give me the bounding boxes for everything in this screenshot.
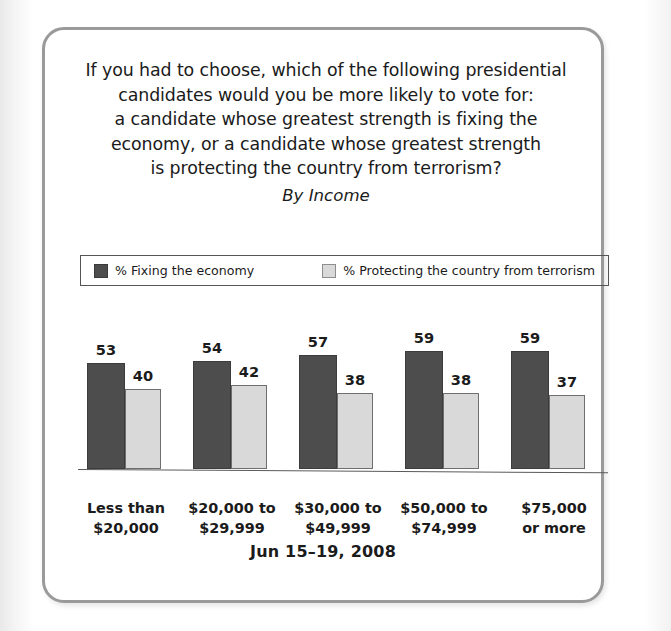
bar-value-terrorism-0: 40 — [125, 368, 161, 384]
footer-date: Jun 15–19, 2008 — [45, 542, 601, 561]
legend-swatch-light-icon — [322, 264, 336, 278]
bar-terrorism-3 — [443, 393, 479, 469]
page-title: If you had to choose, which of the follo… — [63, 58, 589, 208]
chart-legend: % Fixing the economy % Protecting the co… — [80, 255, 609, 286]
bar-economy-3 — [405, 351, 443, 469]
x-label-1: $20,000 to $29,999 — [176, 498, 288, 538]
bar-economy-0 — [87, 363, 125, 469]
x-label-0: Less than $20,000 — [70, 498, 182, 538]
title-line-1: If you had to choose, which of the follo… — [63, 58, 589, 83]
bar-terrorism-2 — [337, 393, 373, 469]
x-label-2: $30,000 to $49,999 — [282, 498, 394, 538]
bar-value-terrorism-4: 37 — [549, 374, 585, 390]
bar-chart-plot: 53 40 54 42 57 38 59 38 59 37 — [78, 330, 608, 470]
bar-group: 53 40 — [78, 329, 174, 469]
bar-terrorism-1 — [231, 385, 267, 469]
bar-group: 54 42 — [184, 329, 280, 469]
bar-value-economy-1: 54 — [193, 340, 231, 356]
bar-economy-2 — [299, 355, 337, 469]
x-axis-labels: Less than $20,000 $20,000 to $29,999 $30… — [78, 498, 608, 544]
bar-terrorism-4 — [549, 395, 585, 469]
bar-economy-1 — [193, 361, 231, 469]
bar-economy-4 — [511, 351, 549, 469]
legend-label-protecting-country: % Protecting the country from terrorism — [343, 264, 595, 278]
legend-swatch-dark-icon — [94, 264, 108, 278]
bar-group: 57 38 — [290, 329, 386, 469]
legend-item-fixing-economy: % Fixing the economy — [94, 256, 254, 285]
title-line-4: economy, or a candidate whose greatest s… — [63, 132, 589, 157]
title-line-5: is protecting the country from terrorism… — [63, 156, 589, 181]
bar-group: 59 38 — [396, 329, 492, 469]
chart-subtitle: By Income — [63, 183, 589, 208]
title-line-2: candidates would you be more likely to v… — [63, 83, 589, 108]
bar-value-terrorism-3: 38 — [443, 372, 479, 388]
bar-value-terrorism-1: 42 — [231, 364, 267, 380]
x-axis-line — [78, 469, 608, 473]
bar-terrorism-0 — [125, 389, 161, 469]
bar-value-economy-4: 59 — [511, 330, 549, 346]
bar-value-economy-0: 53 — [87, 342, 125, 358]
bar-group: 59 37 — [502, 329, 598, 469]
x-label-4: $75,000 or more — [498, 498, 610, 538]
legend-item-protecting-country: % Protecting the country from terrorism — [322, 256, 595, 285]
bar-value-economy-2: 57 — [299, 334, 337, 350]
legend-label-fixing-economy: % Fixing the economy — [115, 264, 254, 278]
chart-card: If you had to choose, which of the follo… — [42, 27, 604, 603]
bar-value-terrorism-2: 38 — [337, 372, 373, 388]
x-label-3: $50,000 to $74,999 — [388, 498, 500, 538]
title-line-3: a candidate whose greatest strength is f… — [63, 107, 589, 132]
bar-value-economy-3: 59 — [405, 330, 443, 346]
